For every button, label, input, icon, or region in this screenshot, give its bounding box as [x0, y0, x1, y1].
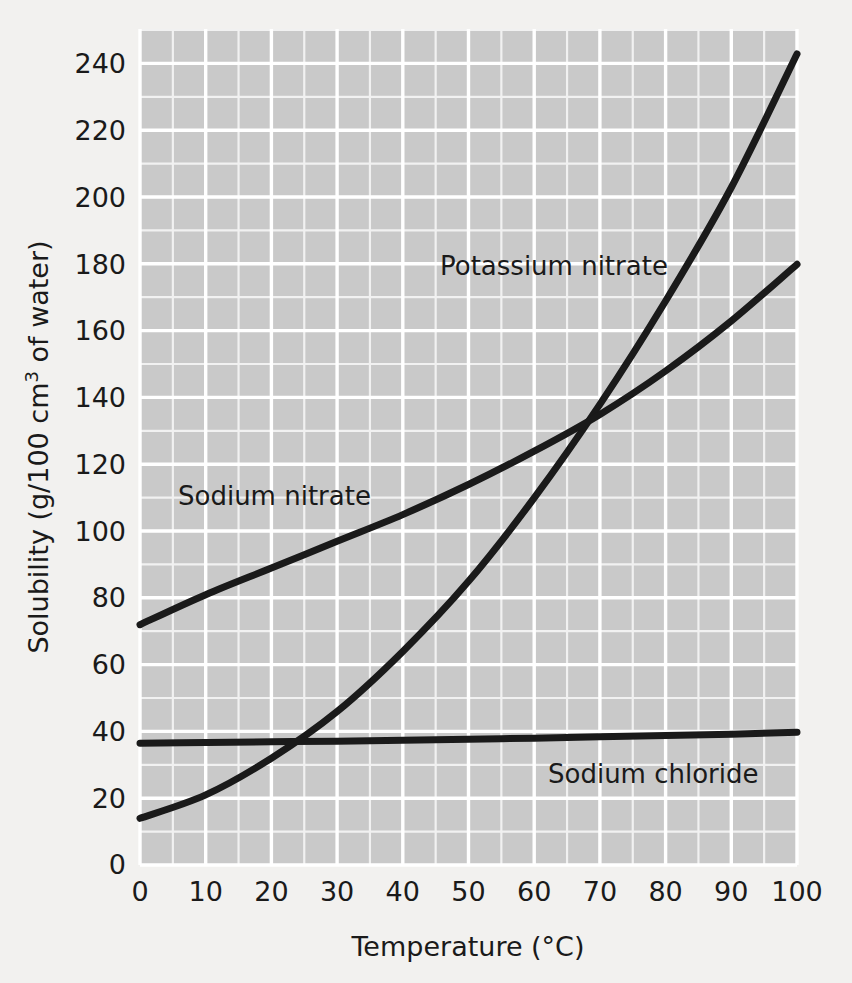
x-tick-label: 20: [254, 876, 288, 907]
x-tick-label: 100: [771, 876, 823, 907]
x-tick-label: 30: [320, 876, 354, 907]
series-label-sodium-chloride: Sodium chloride: [548, 759, 759, 789]
y-axis-title-main: Solubility (g/100 cm: [23, 383, 54, 654]
series-label-potassium-nitrate: Potassium nitrate: [440, 251, 668, 281]
x-tick-label: 80: [648, 876, 682, 907]
y-tick-label: 80: [92, 582, 126, 613]
y-tick-label: 20: [92, 783, 126, 814]
y-tick-label: 0: [109, 849, 126, 880]
chart-canvas: 0 20 40 60 80 100 120 140 160 180 200 22…: [0, 0, 852, 983]
svg-text:Solubility (g/100 cm3 of water: Solubility (g/100 cm3 of water): [21, 240, 54, 653]
y-axis-title: Solubility (g/100 cm3 of water): [21, 240, 54, 653]
y-tick-label: 240: [74, 48, 126, 79]
y-tick-label: 120: [74, 449, 126, 480]
y-tick-label: 160: [74, 315, 126, 346]
x-tick-label: 40: [386, 876, 420, 907]
y-tick-label: 220: [74, 115, 126, 146]
series-label-sodium-nitrate: Sodium nitrate: [178, 481, 371, 511]
y-axis-title-superscript: 3: [21, 371, 42, 382]
y-tick-label: 140: [74, 382, 126, 413]
y-tick-label: 40: [92, 716, 126, 747]
solubility-chart-figure: 0 20 40 60 80 100 120 140 160 180 200 22…: [0, 0, 852, 983]
x-tick-label: 60: [517, 876, 551, 907]
y-tick-label: 60: [92, 649, 126, 680]
y-axis-title-tail: of water): [23, 240, 54, 371]
y-tick-label: 100: [74, 516, 126, 547]
y-tick-label: 180: [74, 249, 126, 280]
x-tick-label: 10: [189, 876, 223, 907]
y-tick-label: 200: [74, 182, 126, 213]
x-axis-title: Temperature (°C): [350, 931, 584, 962]
x-tick-label: 70: [583, 876, 617, 907]
x-tick-label: 0: [131, 876, 148, 907]
x-tick-label: 90: [714, 876, 748, 907]
x-tick-label: 50: [451, 876, 485, 907]
